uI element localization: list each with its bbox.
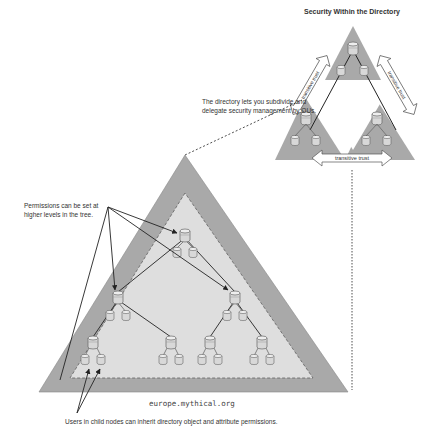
diagram-title: Security Within the Directory	[304, 8, 400, 16]
database-cylinder-icon	[383, 135, 391, 145]
database-cylinder-icon	[205, 336, 215, 349]
forest-diagram: transitive trust transitive trust transi…	[275, 26, 421, 166]
database-cylinder-icon	[250, 354, 258, 364]
database-cylinder-icon	[214, 354, 222, 364]
database-cylinder-icon	[362, 135, 370, 145]
database-cylinder-icon	[337, 65, 345, 75]
database-cylinder-icon	[189, 247, 197, 257]
database-cylinder-icon	[372, 112, 382, 125]
diagram-canvas: Security Within the Directory transitive…	[0, 0, 435, 444]
database-cylinder-icon	[230, 291, 240, 304]
database-cylinder-icon	[223, 310, 231, 320]
database-cylinder-icon	[166, 336, 176, 349]
database-cylinder-icon	[257, 336, 267, 349]
database-cylinder-icon	[198, 354, 206, 364]
database-cylinder-icon	[291, 135, 299, 145]
permissions-callout-line1: Permissions can be set at	[24, 202, 99, 209]
trust-label-bottom: transitive trust	[335, 155, 370, 161]
database-cylinder-icon	[122, 310, 130, 320]
subdivide-callout-line2: delegate security management by OUs.	[202, 107, 316, 115]
database-cylinder-icon	[88, 336, 98, 349]
database-cylinder-icon	[159, 354, 167, 364]
database-cylinder-icon	[180, 229, 190, 242]
inherit-callout: Users in child nodes can inherit directo…	[65, 418, 278, 426]
database-cylinder-icon	[312, 135, 320, 145]
domain-label: europe.mythical.org	[149, 399, 235, 408]
domain-triangle: europe.mythical.org	[39, 155, 348, 408]
database-cylinder-icon	[175, 354, 183, 364]
database-cylinder-icon	[348, 42, 358, 55]
subdivide-callout-line1: The directory lets you subdivide and	[202, 98, 306, 106]
database-cylinder-icon	[360, 65, 368, 75]
database-cylinder-icon	[113, 291, 123, 304]
database-cylinder-icon	[81, 354, 89, 364]
permissions-callout-line2: higher levels in the tree.	[24, 211, 93, 219]
database-cylinder-icon	[106, 310, 114, 320]
database-cylinder-icon	[97, 354, 105, 364]
database-cylinder-icon	[266, 354, 274, 364]
database-cylinder-icon	[239, 310, 247, 320]
